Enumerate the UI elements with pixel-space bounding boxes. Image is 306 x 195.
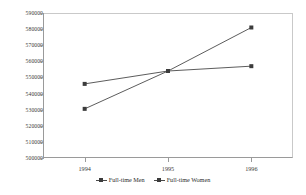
x-axis-tick-mark	[168, 158, 169, 162]
legend-label: Full-time Men	[109, 176, 145, 184]
x-axis-tick-mark	[85, 158, 86, 162]
y-axis-tick-mark	[40, 13, 44, 14]
y-axis-tick-label: 520000	[0, 121, 43, 131]
y-axis-tick-mark	[40, 29, 44, 30]
y-axis-tick-label: 530000	[0, 105, 43, 115]
y-axis-tick-mark	[40, 110, 44, 111]
y-axis-tick-label: 550000	[0, 72, 43, 82]
x-axis-tick-label: 1995	[143, 165, 193, 172]
x-axis-tick-mark	[251, 158, 252, 162]
y-axis-tick-label: 570000	[0, 40, 43, 50]
y-axis-tick-label: 590000	[0, 8, 43, 18]
x-axis-tick-label: 1996	[226, 165, 276, 172]
y-axis-tick-label: 540000	[0, 89, 43, 99]
y-axis-tick-mark	[40, 77, 44, 78]
plot-area	[43, 13, 293, 158]
y-axis-tick-mark	[40, 45, 44, 46]
chart-legend: Full-time Men Full-time Women	[0, 176, 306, 184]
y-axis-tick-mark	[40, 126, 44, 127]
y-axis-tick-mark	[40, 94, 44, 95]
legend-marker-icon	[154, 178, 165, 183]
line-chart: 5900005800005700005600005500005400005300…	[0, 0, 306, 195]
y-axis-tick-mark	[40, 61, 44, 62]
legend-item-full-time-men[interactable]: Full-time Men	[96, 176, 145, 184]
x-axis-tick-label: 1994	[60, 165, 110, 172]
y-axis-tick-mark	[40, 158, 44, 159]
y-axis-tick-label: 580000	[0, 24, 43, 34]
legend-item-full-time-women[interactable]: Full-time Women	[154, 176, 211, 184]
legend-label: Full-time Women	[167, 176, 211, 184]
legend-marker-icon	[96, 178, 107, 183]
y-axis-tick-mark	[40, 142, 44, 143]
y-axis-tick-label: 500000	[0, 153, 43, 163]
y-axis-tick-label: 560000	[0, 56, 43, 66]
y-axis-tick-label: 510000	[0, 137, 43, 147]
